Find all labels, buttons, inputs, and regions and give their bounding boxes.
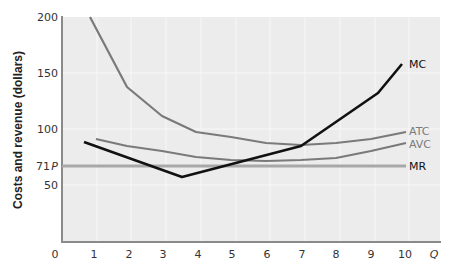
x-tick-6: 6 [264, 248, 271, 261]
y-tick-200: 200 [37, 11, 58, 24]
atc-label: ATC [409, 125, 430, 138]
mr-label: MR [409, 160, 426, 173]
y-tick-p: P [51, 160, 58, 173]
y-axis-title: Costs and revenue (dollars) [11, 51, 25, 209]
x-axis-label: Q [430, 248, 439, 261]
y-tick-100: 100 [37, 123, 58, 136]
x-tick-7: 7 [299, 248, 306, 261]
y-tick-150: 150 [37, 67, 58, 80]
x-tick-8: 8 [333, 248, 340, 261]
cost-revenue-chart: 200 150 100 71 P 50 0 1 2 3 4 5 6 7 8 9 … [0, 0, 453, 275]
x-tick-5: 5 [229, 248, 236, 261]
x-tick-3: 3 [160, 248, 167, 261]
mc-label: MC [409, 58, 426, 71]
avc-label: AVC [409, 138, 431, 151]
x-tick-10: 10 [398, 248, 412, 261]
x-tick-9: 9 [368, 248, 375, 261]
x-tick-2: 2 [126, 248, 133, 261]
y-tick-71: 71 [36, 160, 50, 173]
x-tick-0: 0 [52, 248, 59, 261]
y-tick-50: 50 [44, 179, 58, 192]
x-tick-4: 4 [195, 248, 202, 261]
x-tick-1: 1 [91, 248, 98, 261]
